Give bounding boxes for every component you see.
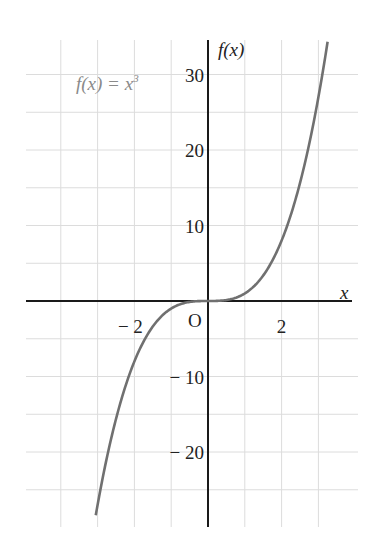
y-tick-label: 20 [185,140,204,161]
x-tick-label: 2 [277,316,287,337]
function-annotation: f(x) = x3 [76,72,139,95]
formula-lhs: f(x) = x [76,73,134,95]
y-axis-label: f(x) [218,39,244,61]
origin-label: O [188,310,202,331]
y-tick-label: − 10 [170,367,204,388]
y-tick-label: 10 [185,216,204,237]
chart-canvas: 302010− 10− 20− 22 x f(x) O f(x) = x3 [0,0,373,559]
formula-exponent: 3 [132,72,139,84]
y-tick-label: − 20 [170,442,204,463]
x-tick-label: − 2 [118,316,143,337]
y-tick-label: 30 [185,65,204,86]
cubic-curve [96,42,328,515]
x-axis-label: x [339,282,349,303]
